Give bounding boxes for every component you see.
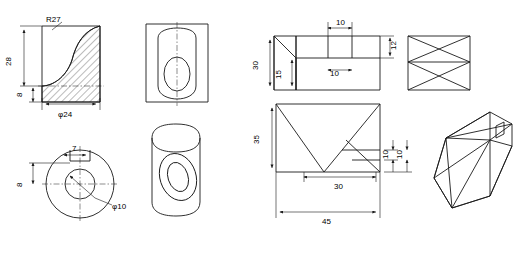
view-8-geometry — [434, 112, 512, 208]
view-7-geometry — [276, 104, 380, 172]
dim-28: 28 — [4, 57, 13, 66]
dim-8-v1: 8 — [15, 92, 24, 97]
dim-7: 7 — [72, 144, 77, 153]
dim-d10: φ10 — [112, 202, 127, 211]
dim-30-front: 30 — [334, 182, 343, 191]
dim-10-lower: 10 — [330, 69, 339, 78]
dim-12: 12 — [389, 41, 398, 50]
drawing-sheet: R27 28 8 φ24 7 8 φ10 10 12 30 15 10 35 1… — [0, 0, 531, 256]
dimension-labels: R27 28 8 φ24 7 8 φ10 10 12 30 15 10 35 1… — [4, 15, 404, 226]
dim-35: 35 — [252, 135, 261, 144]
view-3-dimensions — [29, 155, 112, 205]
view-6-geometry — [408, 36, 470, 90]
dim-d24: φ24 — [58, 110, 73, 119]
view-1-geometry — [38, 26, 104, 102]
drawing-canvas: R27 28 8 φ24 7 8 φ10 10 12 30 15 10 35 1… — [0, 0, 531, 256]
dim-8-v3: 8 — [15, 182, 24, 187]
dim-10-a: 10 — [381, 150, 390, 159]
dim-15: 15 — [274, 70, 283, 79]
view-7-dimensions — [272, 108, 412, 218]
view-2-geometry — [146, 22, 208, 106]
view-4-geometry — [152, 124, 203, 216]
dim-30-top: 30 — [251, 61, 260, 70]
dim-10-b: 10 — [395, 150, 404, 159]
dim-45: 45 — [322, 217, 331, 226]
view-3-geometry — [42, 146, 118, 222]
dim-r27: R27 — [46, 15, 61, 24]
dim-10-upper: 10 — [336, 18, 345, 27]
view-5-geometry — [274, 36, 380, 90]
